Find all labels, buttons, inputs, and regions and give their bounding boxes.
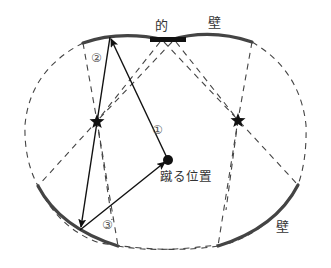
- left-circle-dashed-arc: [25, 43, 83, 186]
- dashed-guide-arcs: [25, 42, 306, 249]
- wall-bottom-right: [218, 185, 298, 246]
- path1-marker: ①: [152, 123, 163, 137]
- path2-arrow: [81, 37, 110, 227]
- path3-arrow: [80, 162, 165, 230]
- path2-marker: ②: [91, 51, 102, 65]
- left-vertical-dashed-b: [97, 121, 112, 220]
- right-circle-dashed-arc: [252, 42, 306, 185]
- path1-arrow: [111, 39, 168, 160]
- target-to-left-star-line-b: [97, 42, 172, 121]
- wall-bottom-left: [38, 186, 118, 246]
- target-to-right-star-line-b: [176, 42, 238, 120]
- kick-position-label: 蹴る位置: [160, 169, 212, 184]
- wall-top-label: 壁: [208, 15, 221, 30]
- kick-position-dot: [163, 155, 173, 165]
- target-bar: [150, 37, 186, 42]
- path3-marker: ③: [102, 218, 113, 232]
- right-vertical-dashed-b: [226, 120, 238, 210]
- wall-bottom-right-label: 壁: [276, 219, 289, 234]
- target-label: 的: [155, 18, 168, 33]
- walls: [38, 34, 298, 246]
- billiard-diagram: 的 壁 壁 蹴る位置 ① ② ③: [0, 0, 331, 268]
